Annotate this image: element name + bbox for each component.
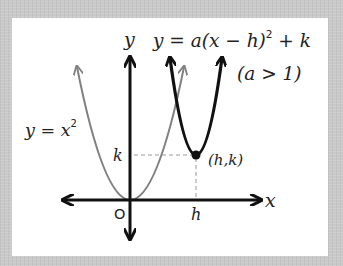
condition-label: (a > 1) <box>237 63 302 84</box>
vertex-point <box>192 151 201 160</box>
vertex-label: (h,k) <box>208 151 243 169</box>
h-tick-label: h <box>191 205 201 224</box>
origin-label: O <box>114 206 125 222</box>
y-axis-label: y <box>123 28 135 50</box>
parabola-transformed <box>170 58 222 155</box>
transformed-equation-label: y = a(x − h)2 + k <box>152 28 311 51</box>
x-axis-label: x <box>265 189 276 211</box>
k-tick-label: k <box>113 146 123 165</box>
parent-equation-label: y = x2 <box>24 118 77 140</box>
parabola-diagram: y y = a(x − h)2 + k (a > 1) y = x2 k (h,… <box>0 0 343 266</box>
